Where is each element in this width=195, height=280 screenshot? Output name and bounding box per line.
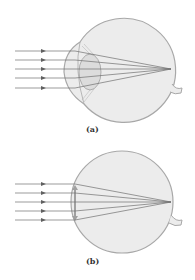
crystalline-lens-a (79, 54, 101, 90)
figure-a (15, 18, 182, 122)
figure-b (15, 151, 182, 253)
optic-nerve-b (169, 215, 182, 226)
ray-arrows-b (41, 182, 46, 222)
ray-arrows-a (41, 49, 46, 90)
figure-b-label: (b) (86, 256, 99, 266)
figure-a-label: (a) (86, 124, 99, 134)
eye-optics-diagram (0, 0, 195, 280)
optic-nerve-a (170, 84, 182, 94)
